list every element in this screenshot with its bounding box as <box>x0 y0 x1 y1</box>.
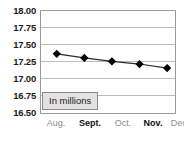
y-axis-tick-label: 17.75 <box>13 23 36 33</box>
data-point-marker <box>163 64 171 72</box>
y-axis-tick-label: 16.50 <box>13 108 36 118</box>
x-axis-tick-label: Oct. <box>115 118 132 129</box>
line-chart: 18.00 17.75 17.50 17.25 17.00 16.75 16.5… <box>0 0 184 143</box>
data-point-marker <box>108 57 116 65</box>
data-point-marker <box>80 54 88 62</box>
data-point-marker <box>135 60 143 68</box>
x-axis: Aug. Sept. Oct. Nov. Dec. <box>40 118 184 136</box>
y-axis-tick-label: 17.50 <box>13 40 36 50</box>
y-axis-tick-label: 17.00 <box>13 74 36 84</box>
x-axis-tick-label: Dec. <box>171 118 184 129</box>
x-axis-tick-label: Nov. <box>144 118 163 129</box>
y-axis-tick-label: 18.00 <box>13 6 36 16</box>
y-axis-tick-label: 17.25 <box>13 57 36 67</box>
x-axis-tick-label: Sept. <box>79 118 101 129</box>
in-millions-annotation: In millions <box>42 92 98 110</box>
x-axis-tick-label: Aug. <box>47 118 66 129</box>
y-axis-tick-label: 16.75 <box>13 91 36 101</box>
y-axis: 18.00 17.75 17.50 17.25 17.00 16.75 16.5… <box>0 0 38 143</box>
data-point-marker <box>53 50 61 58</box>
